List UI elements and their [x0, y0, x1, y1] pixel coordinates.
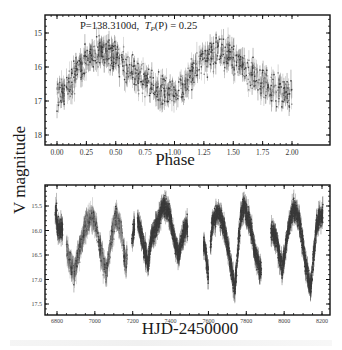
bottom-panel-data-points [55, 190, 324, 304]
x-tick-label: 6800 [51, 318, 63, 324]
x-tick-label: 1.50 [227, 148, 240, 157]
bottom-x-axis-label: HJD-2450000 [142, 319, 238, 339]
top-panel-y-tick-labels: 15161718 [34, 29, 42, 140]
y-tick-label: 16.5 [32, 252, 43, 258]
y-tick-label: 17.5 [32, 301, 43, 307]
y-axis-label: V magnitude [8, 125, 32, 215]
y-tick-label: 15.5 [32, 203, 43, 209]
x-tick-label: 7800 [240, 318, 252, 324]
y-tick-label: 16.0 [32, 228, 43, 234]
x-tick-label: 8200 [316, 318, 328, 324]
x-tick-label: 7000 [89, 318, 101, 324]
stray-point [199, 186, 201, 188]
y-tick-label: 17 [34, 97, 42, 106]
y-axis-label-text: V magnitude [10, 126, 30, 214]
top-x-axis-label: Phase [155, 150, 195, 170]
x-tick-label: 1.75 [256, 148, 269, 157]
x-tick-label: 2.00 [285, 148, 298, 157]
x-tick-label: 1.25 [197, 148, 210, 157]
top-panel: 0.000.250.500.751.001.251.501.752.00 151… [34, 15, 330, 157]
x-tick-label: 7200 [127, 318, 139, 324]
y-tick-label: 18 [34, 131, 42, 140]
light-curve-figure: 0.000.250.500.751.001.251.501.752.00 151… [0, 0, 342, 350]
top-panel-data-points [56, 27, 292, 118]
y-tick-label: 17.0 [32, 277, 43, 283]
x-tick-label: 0.25 [80, 148, 93, 157]
y-tick-label: 16 [34, 63, 42, 72]
bottom-panel: 68007000720074007600780080008200 15.516.… [32, 185, 331, 324]
x-tick-label: 0.00 [50, 148, 63, 157]
x-tick-label: 0.75 [139, 148, 152, 157]
x-tick-label: 8000 [278, 318, 290, 324]
bottom-panel-y-tick-labels: 15.516.016.517.017.5 [32, 203, 43, 307]
x-tick-label: 0.50 [109, 148, 122, 157]
y-tick-label: 15 [34, 29, 42, 38]
period-annotation: P=138.3100d, TP(P) = 0.25 [80, 20, 197, 33]
cropped-caption [10, 340, 332, 346]
